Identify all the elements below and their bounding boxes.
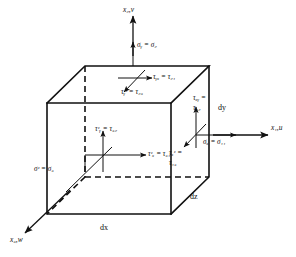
dimension-label-dy: dy [218, 104, 226, 112]
axis-label-x3: x₃,w [10, 236, 23, 244]
stress-label-tau-xz: τₓᶻ = τ₁₃ [169, 148, 182, 169]
stress-cube-figure: x₂,v x₁,u x₃,w dx dy dz σᵧ = σ₂ σₓ = σ₁₁… [0, 0, 296, 257]
axis-label-x2: x₂,v [123, 6, 134, 14]
stress-label-sigma-x: σₓ = σ₁₁ [203, 139, 226, 147]
stress-label-sigma-z: σᶻ = σ₃ [34, 166, 54, 174]
stress-label-sigma-y: σᵧ = σ₂ [137, 42, 157, 50]
dimension-label-dz: dz [190, 193, 198, 201]
front-face-stress-cross [66, 131, 146, 192]
axis-label-x1: x₁,u [271, 124, 282, 132]
stress-label-tau-zx: τᶻₓ = τ₃₁ [148, 151, 170, 159]
stress-label-tau-xz-line1: τₓᶻ = [169, 148, 182, 158]
cube-geometry-svg [0, 0, 296, 257]
stress-label-tau-xy-line2: τ₁₂ [193, 103, 206, 113]
cube-top-face [47, 66, 209, 103]
stress-label-tau-yx: τᵧₓ = τ₂₁ [153, 74, 175, 82]
dimension-label-dx: dx [100, 224, 108, 232]
stress-label-tau-xy-line1: τₓᵧ = [193, 93, 206, 103]
stress-label-tau-yz: τᵧᶻ = τ₂₃ [121, 89, 143, 97]
stress-label-tau-xy: τₓᵧ = τ₁₂ [193, 93, 206, 114]
stress-label-tau-xz-line2: τ₁₃ [169, 158, 182, 168]
stress-label-tau-zy: τᶻᵧ = τ₃₂ [95, 126, 117, 134]
